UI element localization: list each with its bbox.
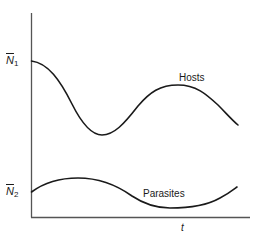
x-axis-label: t [181, 223, 184, 233]
y-label-n2-subscript: 2 [14, 190, 18, 199]
parasites-curve [32, 178, 238, 208]
y-label-n1-subscript: 1 [14, 59, 18, 68]
hosts-label: Hosts [179, 73, 205, 83]
parasites-label: Parasites [143, 189, 185, 199]
hosts-curve [32, 61, 239, 135]
y-label-n2: N2 [6, 186, 18, 199]
y-label-n1: N1 [6, 55, 18, 68]
y-label-n2-symbol: N [6, 185, 14, 197]
diagram-canvas [0, 0, 260, 241]
y-label-n1-symbol: N [6, 54, 14, 66]
